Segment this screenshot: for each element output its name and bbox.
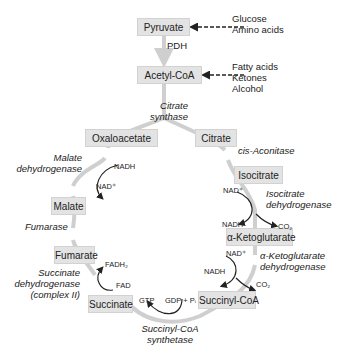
input-fatty-acids: Fatty acids [232,61,278,72]
node-succinyl-coa: Succinyl-CoA [198,291,256,309]
input-ketones: Ketones [232,72,267,83]
node-oxaloacetate: Oxaloacetate [85,129,158,147]
enzyme-akg-dh-2: dehydrogenase [260,261,326,272]
enzyme-malate-dh-1: Malate [10,152,82,163]
enzyme-pdh: PDH [167,40,187,51]
enzyme-succinate-dh-1: Succinate [10,267,80,278]
node-fumarate: Fumarate [54,246,95,264]
enzyme-malate-dh-2: dehydrogenase [10,163,82,174]
node-pyruvate: Pyruvate [137,18,190,36]
enzyme-isocitrate-dh-1: Isocitrate [266,188,305,199]
cofactor-gtp: GTP [139,296,154,305]
enzyme-citrate-synthase-2: synthase [130,111,188,122]
node-succinate: Succinate [88,295,133,313]
cofactor-malate-nad: NAD⁺ [96,182,116,191]
cofactor-malate-nadh: NADH [114,162,135,171]
node-isocitrate: Isocitrate [234,166,283,184]
cofactor-fad: FAD [116,281,131,290]
input-amino-acids: Amino acids [232,24,284,35]
enzyme-succinyl-coa-synthetase-1: Succinyl-CoA [130,323,210,334]
node-citrate: Citrate [195,129,237,147]
node-acetyl-coa: Acetyl-CoA [137,66,202,84]
cofactor-akg-co2: CO₂ [256,280,270,289]
cofactor-isocitrate-nadh: NADH [222,220,243,229]
enzyme-succinate-dh-2: dehydrogenase [10,278,80,289]
input-alcohol: Alcohol [232,83,263,94]
enzyme-succinyl-coa-synthetase-2: synthetase [130,334,210,345]
cofactor-fadh2: FADH₂ [105,260,128,269]
cofactor-akg-nadh: NADH [204,267,225,276]
cofactor-akg-nad: NAD⁺ [226,249,246,258]
cofactor-isocitrate-co2: CO₂ [278,222,292,231]
node-malate: Malate [51,197,86,215]
enzyme-citrate-synthase-1: Citrate [130,100,188,111]
enzyme-fumarase: Fumarase [25,221,68,232]
enzyme-cis-aconitase: cis-Aconitase [238,145,295,156]
enzyme-akg-dh-1: α-Ketoglutarate [260,250,325,261]
enzyme-succinate-dh-3: (complex II) [10,289,80,300]
cofactor-gdp-pi: GDP + Pᵢ [165,296,196,305]
enzyme-isocitrate-dh-2: dehydrogenase [266,199,332,210]
input-glucose: Glucose [232,13,267,24]
cofactor-isocitrate-nad: NAD⁺ [223,186,243,195]
